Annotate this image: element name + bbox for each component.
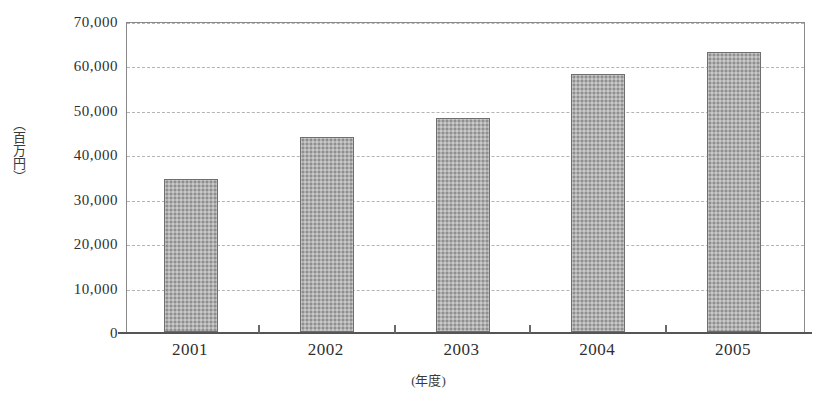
x-axis-tick bbox=[394, 325, 396, 333]
x-axis-tick bbox=[258, 325, 260, 333]
plot-inner bbox=[127, 23, 804, 332]
y-axis-tick-label: 10,000 bbox=[0, 280, 118, 297]
y-axis-tick-label: 60,000 bbox=[0, 58, 118, 75]
x-axis-category-label: 2003 bbox=[402, 340, 522, 360]
y-axis-tick-label: 30,000 bbox=[0, 191, 118, 208]
x-axis-line bbox=[118, 332, 812, 334]
x-axis-category-label: 2005 bbox=[673, 340, 793, 360]
y-axis-tick-label: 20,000 bbox=[0, 236, 118, 253]
bar bbox=[164, 179, 218, 332]
x-axis-tick bbox=[529, 325, 531, 333]
bar-chart-figure: （百万円） 70,00060,00050,00040,00030,00020,0… bbox=[0, 0, 819, 404]
x-axis-category-label: 2004 bbox=[537, 340, 657, 360]
y-axis-tick-label: 70,000 bbox=[0, 14, 118, 31]
y-axis-tick-label: 40,000 bbox=[0, 147, 118, 164]
x-axis-tick bbox=[665, 325, 667, 333]
x-axis-unit-text: (年度) bbox=[411, 373, 446, 388]
x-axis-unit-label: (年度) bbox=[0, 370, 819, 389]
gridline bbox=[127, 23, 804, 24]
bar bbox=[300, 137, 354, 332]
chart-title bbox=[0, 0, 819, 6]
gridline bbox=[127, 112, 804, 113]
x-axis-category-label: 2001 bbox=[130, 340, 250, 360]
y-axis-tick-label: 0 bbox=[0, 325, 118, 342]
plot-area bbox=[126, 22, 805, 333]
gridline bbox=[127, 67, 804, 68]
y-axis-tick-label: 50,000 bbox=[0, 102, 118, 119]
x-axis-category-label: 2002 bbox=[266, 340, 386, 360]
bar bbox=[707, 52, 761, 332]
bar bbox=[571, 74, 625, 332]
bar bbox=[436, 118, 490, 332]
